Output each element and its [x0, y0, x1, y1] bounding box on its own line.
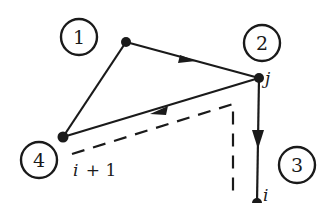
region-label-4: 4: [21, 142, 57, 178]
node-top: [121, 37, 131, 47]
node-label-i-plus-1: i + 1: [73, 160, 116, 180]
region-label-2: 2: [244, 25, 280, 61]
region-number-4: 4: [33, 149, 45, 171]
edge-top-to-left: [63, 42, 126, 137]
node-j: [254, 73, 264, 83]
region-number-3: 3: [291, 154, 303, 176]
region-number-2: 2: [256, 32, 268, 54]
arrow-right-icon: [178, 55, 196, 63]
node-label-i: i: [263, 185, 268, 203]
region-label-1: 1: [61, 19, 97, 55]
node-i: [252, 198, 262, 203]
node-label-i-plus-1-var: i: [73, 160, 78, 180]
region-number-1: 1: [73, 26, 85, 48]
node-i-plus-1: [58, 132, 69, 143]
arrow-down-icon: [252, 130, 264, 149]
node-label-i-plus-1-rest: + 1: [80, 160, 116, 180]
edge-j-to-left: [63, 78, 259, 137]
graph-diagram: 1 2 3 4 j i i + 1: [0, 0, 322, 203]
region-label-3: 3: [279, 147, 315, 183]
